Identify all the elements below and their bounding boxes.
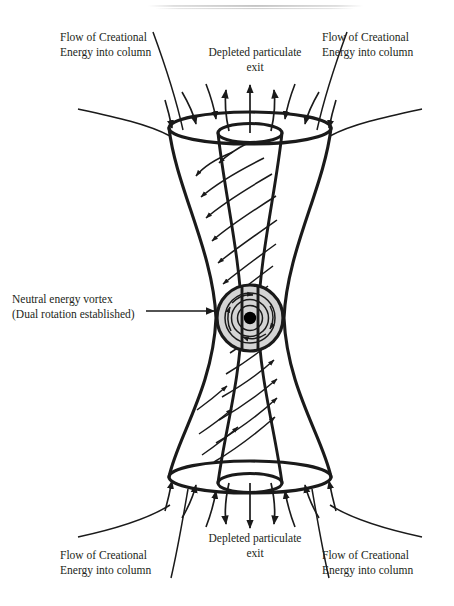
exit-arrow-top-right — [271, 90, 275, 131]
flow-line-bottom-left-inner — [171, 489, 188, 578]
label-line-1: Depleted particulate — [193, 531, 317, 546]
label-line-1: Neutral energy vortex — [12, 292, 144, 307]
outer-wall-right — [284, 128, 331, 477]
label-line-1: Flow of Creational — [60, 548, 151, 563]
label-line-2: exit — [193, 546, 317, 561]
label-flow-bottom-right: Flow of Creational Energy into column — [322, 548, 413, 578]
label-line-1: Flow of Creational — [322, 30, 413, 45]
label-exit-top: Depleted particulate exit — [193, 45, 317, 75]
flow-line-top-left-inner — [153, 32, 183, 130]
label-flow-top-right: Flow of Creational Energy into column — [322, 30, 413, 60]
label-line-1: Depleted particulate — [193, 45, 317, 60]
neutral-energy-vortex — [217, 285, 283, 351]
label-line-2: exit — [193, 60, 317, 75]
flow-line-bottom-right-outer — [330, 505, 422, 537]
label-flow-top-left: Flow of Creational Energy into column — [60, 30, 151, 60]
flow-line-top-right-outer — [330, 109, 422, 136]
vortex-core — [244, 312, 256, 324]
exit-arrow-top-left — [225, 90, 229, 131]
label-line-2: Energy into column — [322, 45, 413, 60]
label-line-2: Energy into column — [60, 45, 151, 60]
label-line-1: Flow of Creational — [60, 30, 151, 45]
label-flow-bottom-left: Flow of Creational Energy into column — [60, 548, 151, 578]
outer-wall-left — [169, 128, 216, 477]
label-line-2: Energy into column — [322, 563, 413, 578]
label-line-1: Flow of Creational — [322, 548, 413, 563]
scan-artifact-line — [148, 5, 363, 9]
label-line-2: Energy into column — [60, 563, 151, 578]
flow-line-bottom-left-outer — [78, 505, 170, 537]
label-neutral-energy-vortex: Neutral energy vortex (Dual rotation est… — [12, 292, 144, 322]
label-exit-bottom: Depleted particulate exit — [193, 531, 317, 561]
label-line-2: (Dual rotation established) — [12, 307, 144, 322]
flow-line-top-left-outer — [78, 109, 170, 136]
